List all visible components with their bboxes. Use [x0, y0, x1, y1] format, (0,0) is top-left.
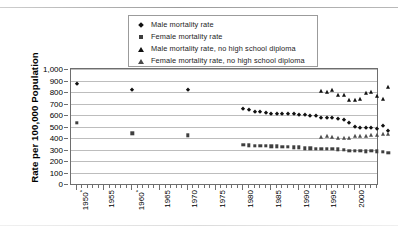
x-tick-mark	[287, 185, 288, 188]
data-point	[381, 132, 385, 136]
data-point	[247, 144, 250, 147]
gridline	[71, 127, 377, 128]
y-tick-label: 700	[50, 99, 63, 108]
data-point	[275, 145, 278, 148]
legend-item-label: Female mortality rate	[151, 31, 223, 43]
y-tick-label: 300	[50, 145, 63, 154]
x-tick-mark	[343, 185, 344, 188]
x-tick-mark	[192, 185, 193, 188]
y-tick-mark	[64, 173, 68, 174]
x-tick-mark	[370, 185, 371, 188]
data-point	[353, 149, 356, 152]
data-point	[342, 93, 346, 97]
data-point	[369, 133, 373, 137]
data-point	[375, 126, 380, 131]
data-point	[353, 134, 357, 138]
data-point	[331, 147, 334, 150]
data-point	[325, 90, 329, 94]
data-point	[309, 147, 312, 150]
data-point	[375, 93, 379, 97]
data-point	[364, 91, 368, 95]
data-point	[242, 143, 245, 146]
data-point	[364, 133, 368, 137]
data-point	[381, 150, 384, 153]
legend-item-1[interactable]: Female mortality rate	[129, 31, 317, 43]
square-icon	[135, 35, 147, 39]
top-divider	[0, 7, 398, 8]
x-tick-label: 2000	[357, 190, 366, 208]
gridline	[71, 104, 377, 105]
x-tick-mark	[265, 185, 266, 188]
y-tick-mark	[64, 115, 68, 116]
x-tick-mark	[320, 185, 321, 188]
gridline	[71, 161, 377, 162]
y-tick-mark	[64, 127, 68, 128]
x-tick-mark	[170, 185, 171, 188]
x-tick-mark	[248, 185, 249, 188]
data-point	[364, 150, 367, 153]
x-tick-mark	[126, 185, 127, 188]
x-tick-mark	[81, 185, 82, 188]
data-point	[342, 148, 345, 151]
gridline	[71, 92, 377, 93]
data-point	[253, 144, 256, 147]
legend-item-label: Male mortality rate, no high school dipl…	[151, 43, 296, 55]
x-tick-mark	[148, 185, 149, 188]
y-tick-label: 200	[50, 157, 63, 166]
data-point	[320, 147, 323, 150]
y-tick-label: 1,000	[43, 65, 63, 74]
x-tick-mark	[176, 185, 177, 188]
y-tick-mark	[64, 92, 68, 93]
data-point	[386, 151, 389, 154]
x-tick-mark	[220, 185, 221, 188]
data-point	[258, 144, 261, 147]
x-tick-mark	[254, 185, 255, 188]
x-tick-mark	[87, 185, 88, 188]
x-tick-label: 1960*	[135, 190, 146, 210]
y-axis-labels: 1,0009008007006005004003002001000	[0, 68, 68, 185]
data-point	[281, 145, 284, 148]
y-tick-mark	[64, 161, 68, 162]
x-tick-mark	[142, 185, 143, 188]
y-tick-mark	[64, 150, 68, 151]
chart-page: Rate per 100,000 Population Male mortali…	[0, 0, 398, 234]
plot-area	[70, 68, 378, 185]
y-tick-label: 500	[50, 122, 63, 131]
x-tick-mark	[304, 185, 305, 188]
gridline	[71, 69, 377, 70]
data-point	[347, 149, 350, 152]
data-point	[319, 134, 323, 138]
gridline	[71, 81, 377, 82]
data-point	[314, 147, 317, 150]
legend-item-2[interactable]: Male mortality rate, no high school dipl…	[129, 43, 317, 55]
x-tick-mark	[226, 185, 227, 188]
triangle-light-icon	[135, 59, 147, 64]
x-tick-mark	[98, 185, 99, 188]
data-point	[336, 148, 339, 151]
x-tick-mark	[276, 185, 277, 188]
legend-item-0[interactable]: Male mortality rate	[129, 19, 317, 31]
data-point	[292, 145, 295, 148]
gridline	[71, 173, 377, 174]
x-tick-mark	[365, 185, 366, 188]
x-tick-label: 1970	[190, 190, 199, 208]
x-tick-mark	[259, 185, 260, 188]
data-point	[286, 145, 289, 148]
gridlines	[71, 69, 377, 184]
legend-item-3[interactable]: Female mortality rate, no high school di…	[129, 55, 317, 67]
data-point	[270, 145, 273, 148]
data-point	[353, 98, 357, 102]
y-tick-mark	[64, 184, 68, 185]
data-point	[336, 136, 340, 140]
data-point	[358, 134, 362, 138]
data-point	[75, 121, 78, 124]
data-point	[358, 96, 362, 100]
x-tick-label: 1980	[246, 190, 255, 208]
x-tick-mark	[348, 185, 349, 188]
data-point	[370, 149, 373, 152]
data-point	[325, 133, 329, 137]
y-tick-label: 900	[50, 76, 63, 85]
data-point	[330, 135, 334, 139]
y-tick-label: 600	[50, 111, 63, 120]
x-tick-label: 1955	[107, 190, 116, 208]
